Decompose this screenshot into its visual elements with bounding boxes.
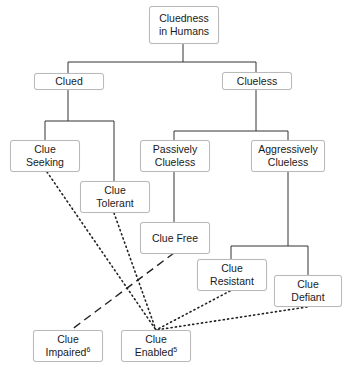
node-label-line: Clue [57,333,79,346]
node-label-line: Aggressively [258,143,318,156]
node-label-line: Clueless [155,156,195,169]
node-label-line: Seeking [26,156,64,169]
node-cluedness-in-humans: Cluedness in Humans [149,6,219,44]
node-label-line: Defiant [291,291,324,304]
node-passively-clueless: Passively Clueless [140,140,210,172]
node-clueless: Clueless [222,72,292,90]
edge-free-impaired [71,253,174,330]
node-clue-seeking: Clue Seeking [10,140,80,172]
node-label-line: Resistant [210,275,254,288]
node-label-line: Impaired6 [46,346,91,359]
node-label-text: Enabled [135,346,174,358]
node-clue-free: Clue Free [140,222,210,254]
node-label-line: Clueless [237,75,277,88]
node-label-line: Clue [34,143,56,156]
node-clue-impaired: Clue Impaired6 [33,330,103,362]
node-label-line: Clue [145,333,167,346]
footnote-marker: 5 [173,346,177,353]
node-label-text: Impaired [46,346,87,358]
node-label-line: Enabled5 [135,346,177,359]
node-clued: Clued [34,73,104,90]
node-label-line: Clue [297,278,319,291]
node-clue-enabled: Clue Enabled5 [121,330,191,362]
node-label-line: Clueless [268,156,308,169]
node-clue-defiant: Clue Defiant [274,275,342,307]
node-label-line: Clue [221,262,243,275]
node-label-line: Clue Free [152,232,198,245]
node-label-line: in Humans [159,25,209,38]
node-label-line: Cluedness [159,12,209,25]
node-clue-resistant: Clue Resistant [197,259,267,291]
node-label-line: Clued [55,75,82,88]
node-label-line: Tolerant [96,197,133,210]
node-label-line: Clue [104,184,126,197]
diagram-connectors [0,0,351,369]
node-label-line: Passively [153,143,197,156]
node-aggressively-clueless: Aggressively Clueless [251,140,325,172]
node-clue-tolerant: Clue Tolerant [80,181,150,213]
footnote-marker: 6 [86,346,90,353]
